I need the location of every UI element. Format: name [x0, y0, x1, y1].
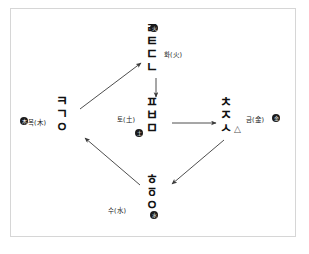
node-earth[interactable]: ㅍ ㅂ ㅁ [146, 96, 158, 135]
element-label-metal: 금(金) [246, 114, 264, 124]
element-label-wood: 목(木) [28, 117, 46, 127]
node-wood[interactable]: ㅋ ㄱ ㅇ [56, 95, 68, 134]
seal-metal: 金 [272, 114, 280, 122]
seal-wood: 木 [20, 117, 28, 125]
node-metal[interactable]: ㅊ ㅈ ㅅ△ [220, 96, 241, 135]
triangle-glyph: △ [234, 125, 241, 134]
jamo-water-2: ㅇ [146, 199, 158, 212]
jamo-wood-2: ㅇ [56, 121, 68, 134]
seal-water: 水 [150, 211, 158, 219]
seal-earth: 土 [135, 129, 143, 137]
diagram-canvas: ㄹ ㅌ ㄷ ㄴ 火 화(火) ㅋ ㄱ ㅇ 木 목(木) ㅍ ㅂ ㅁ 土 토(土)… [0, 0, 309, 254]
jamo-fire-3: ㄴ [146, 61, 158, 74]
node-water[interactable]: ㅎ ㆆ ㅇ [146, 173, 158, 212]
element-label-water: 수(水) [108, 205, 126, 215]
element-label-fire: 화(火) [164, 49, 182, 59]
jamo-metal-2: ㅅ [220, 122, 232, 135]
seal-fire: 火 [150, 24, 158, 32]
jamo-earth-2: ㅁ [146, 122, 158, 135]
jamo-metal-row: ㅅ△ [220, 122, 241, 135]
element-label-earth: 토(土) [117, 114, 135, 124]
